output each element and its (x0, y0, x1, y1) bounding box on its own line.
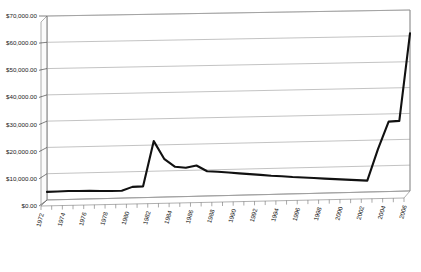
y-axis-label: $0.00 (22, 202, 38, 209)
x-axis-label: 2004 (376, 204, 387, 220)
x-axis-label: 1994 (269, 207, 280, 223)
x-axis-label: 2006 (397, 204, 408, 220)
y-axis-label: $40,000.00 (6, 93, 38, 100)
y-axis-label: $30,000.00 (6, 121, 38, 128)
x-axis-label: 2002 (355, 205, 366, 221)
line-chart: $0.00$10,000.00$20,000.00$30,000.00$40,0… (0, 0, 421, 272)
x-axis-label: 1972 (34, 212, 45, 228)
y-axis-label: $20,000.00 (6, 148, 38, 155)
x-axis-label: 1996 (291, 206, 302, 222)
x-axis-label: 1982 (141, 209, 152, 225)
chart-back-wall (47, 10, 410, 200)
x-axis-labels: 1972197419761978198019821984198619881990… (34, 204, 408, 228)
chart-side-wall (41, 16, 47, 206)
y-axis-label: $10,000.00 (6, 175, 38, 182)
x-axis-label: 1990 (227, 208, 238, 224)
x-axis-label: 1992 (248, 207, 259, 223)
x-axis-label: 1986 (184, 209, 195, 225)
x-axis-label: 1974 (56, 211, 67, 227)
x-axis-label: 1976 (77, 211, 88, 227)
x-axis-label: 1998 (312, 206, 323, 222)
y-axis-label: $70,000.00 (6, 12, 38, 19)
x-axis-label: 1984 (163, 209, 174, 225)
chart-container: $0.00$10,000.00$20,000.00$30,000.00$40,0… (0, 0, 421, 272)
y-axis-label: $50,000.00 (6, 66, 38, 73)
y-axis-label: $60,000.00 (6, 39, 38, 46)
y-axis-labels: $0.00$10,000.00$20,000.00$30,000.00$40,0… (6, 12, 38, 209)
x-axis-label: 1978 (98, 210, 109, 226)
x-axis-label: 2000 (333, 205, 344, 221)
x-axis-label: 1980 (120, 210, 131, 226)
x-axis-label: 1988 (205, 208, 216, 224)
